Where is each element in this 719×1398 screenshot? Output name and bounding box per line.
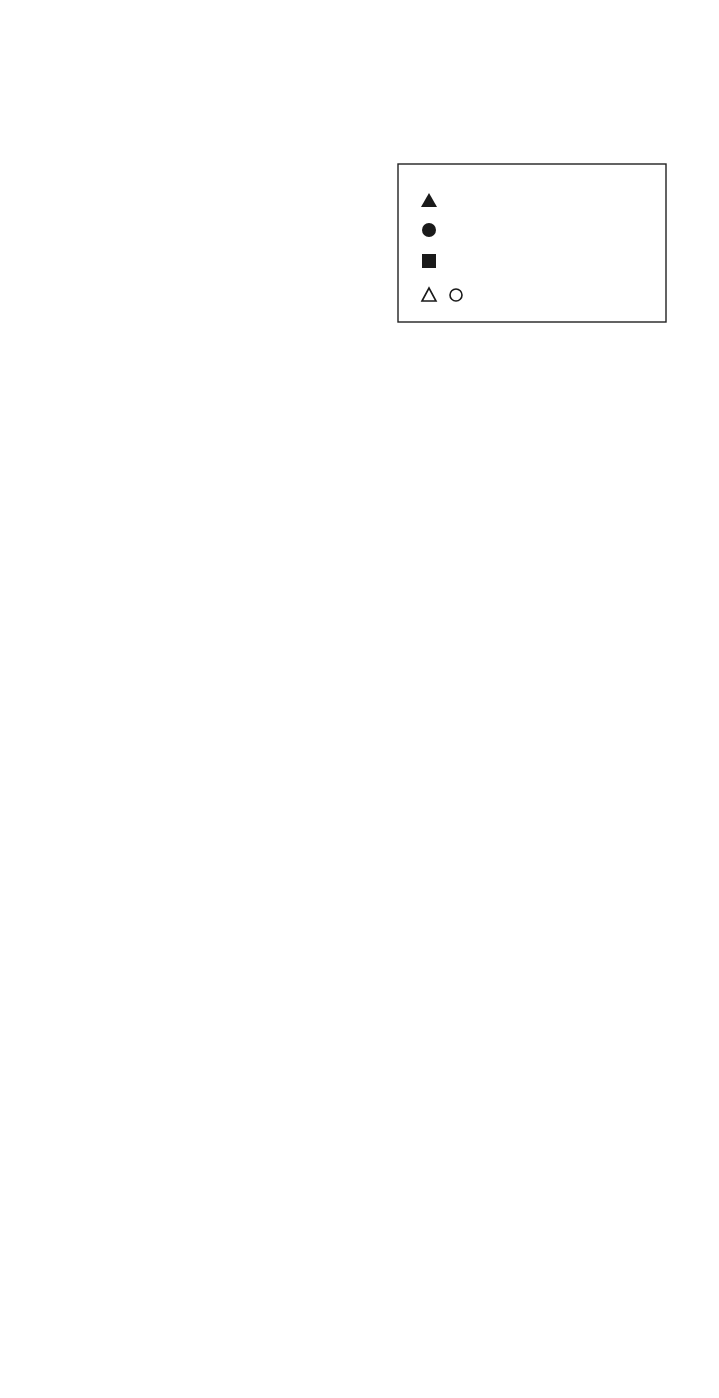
filled-circle-icon: [422, 223, 436, 237]
legend-box: [398, 164, 666, 322]
annotation-layer: [398, 164, 666, 322]
filled-square-icon: [422, 254, 436, 268]
figure: [0, 0, 719, 1398]
